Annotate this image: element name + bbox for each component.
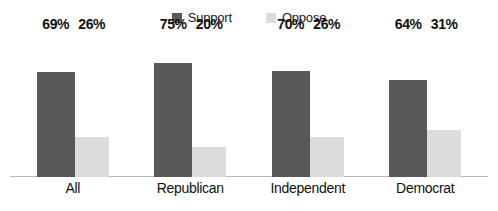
bar-republican-support [154, 63, 192, 177]
category-label-democrat: Democrat [367, 180, 485, 196]
grouped-bar-chart: Support Oppose 69% 26% [0, 0, 498, 211]
bar-democrat-support [389, 80, 427, 177]
bar-all-support [37, 72, 75, 177]
category-label-all: All [14, 180, 132, 196]
category-label-republican: Republican [132, 180, 250, 196]
category-labels: All Republican Independent Democrat [14, 180, 484, 196]
bar-group-republican: 75% 20% [132, 34, 250, 177]
bar-wrap-independent-oppose: 26% [310, 34, 344, 177]
chart-legend: Support Oppose [0, 11, 498, 24]
bar-wrap-republican-oppose: 20% [192, 34, 226, 177]
bar-wrap-democrat-oppose: 31% [427, 34, 461, 177]
bar-wrap-all-support: 69% [37, 34, 75, 177]
bar-value-label: 26% [78, 17, 105, 31]
bar-independent-oppose [310, 137, 344, 177]
bar-value-label: 64% [395, 17, 422, 31]
bar-republican-oppose [192, 147, 226, 177]
bar-all-oppose [75, 137, 109, 177]
bar-value-label: 75% [160, 17, 187, 31]
bar-value-label: 69% [42, 17, 69, 31]
bar-group-democrat: 64% 31% [367, 34, 485, 177]
bar-value-label: 26% [313, 17, 340, 31]
bar-group-independent: 70% 26% [249, 34, 367, 177]
legend-swatch-oppose-icon [266, 13, 276, 23]
bar-independent-support [272, 71, 310, 177]
plot-area: 69% 26% 75% 20% [0, 34, 498, 177]
category-label-independent: Independent [249, 180, 367, 196]
bar-wrap-republican-support: 75% [154, 34, 192, 177]
bar-value-label: 31% [431, 17, 458, 31]
bar-value-label: 70% [277, 17, 304, 31]
bar-wrap-all-oppose: 26% [75, 34, 109, 177]
bar-groups: 69% 26% 75% 20% [14, 34, 484, 177]
bar-value-label: 20% [196, 17, 223, 31]
bar-democrat-oppose [427, 130, 461, 177]
bar-wrap-independent-support: 70% [272, 34, 310, 177]
bar-group-all: 69% 26% [14, 34, 132, 177]
bar-wrap-democrat-support: 64% [389, 34, 427, 177]
